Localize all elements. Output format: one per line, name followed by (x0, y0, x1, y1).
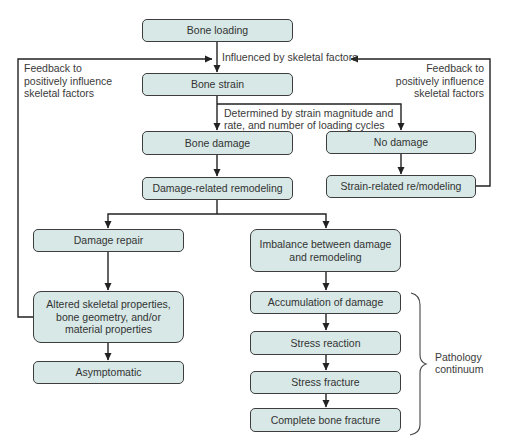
annotation-determined-2: rate, and number of loading cycles (224, 119, 385, 132)
node-strain-related-remodeling: Strain-related re/modeling (326, 175, 476, 198)
node-label: Altered skeletal properties, (46, 298, 170, 311)
node-label: Bone strain (191, 78, 244, 91)
feedback-right-1: Feedback to (426, 62, 484, 75)
node-label: Damage-related remodeling (152, 182, 282, 195)
node-label: No damage (374, 136, 428, 149)
feedback-right-2: positively influence (396, 75, 484, 88)
node-bone-damage: Bone damage (142, 131, 293, 155)
annotation-determined-1: Determined by strain magnitude and (224, 107, 393, 120)
node-complete-bone-fracture: Complete bone fracture (250, 408, 401, 432)
node-label: and remodeling (289, 251, 361, 264)
feedback-left-1: Feedback to (24, 62, 82, 75)
node-damage-repair: Damage repair (33, 229, 184, 252)
feedback-right-3: skeletal factors (414, 87, 484, 100)
node-asymptomatic: Asymptomatic (33, 361, 184, 384)
node-stress-reaction: Stress reaction (250, 331, 401, 355)
annotation-influenced: Influenced by skeletal factors (222, 51, 357, 64)
node-bone-loading: Bone loading (142, 19, 293, 42)
pathology-brace-icon (410, 293, 426, 435)
node-label: Bone loading (187, 24, 248, 37)
node-label: Stress fracture (291, 376, 359, 389)
node-label: material properties (65, 323, 152, 336)
pathology-label-1: Pathology (435, 351, 482, 364)
node-damage-related-remodeling: Damage-related remodeling (142, 177, 293, 200)
node-no-damage: No damage (326, 131, 476, 154)
node-accumulation-of-damage: Accumulation of damage (250, 291, 401, 314)
feedback-left-3: skeletal factors (24, 87, 94, 100)
node-label: Bone damage (185, 137, 250, 150)
node-label: Damage repair (74, 234, 143, 247)
node-label: Accumulation of damage (268, 296, 384, 309)
node-label: Stress reaction (290, 337, 360, 350)
node-label: Asymptomatic (76, 366, 142, 379)
arrow-to-damage-repair (108, 214, 217, 228)
node-altered-properties: Altered skeletal properties, bone geomet… (33, 291, 184, 343)
node-bone-strain: Bone strain (142, 73, 293, 96)
pathology-label-2: continuum (435, 363, 483, 376)
node-imbalance: Imbalance between damage and remodeling (250, 229, 401, 272)
node-label: Complete bone fracture (271, 414, 381, 427)
node-label: Strain-related re/modeling (341, 180, 462, 193)
node-label: bone geometry, and/or (56, 311, 161, 324)
feedback-left-2: positively influence (24, 75, 112, 88)
arrow-to-imbalance (217, 214, 326, 228)
node-label: Imbalance between damage (260, 238, 392, 251)
node-stress-fracture: Stress fracture (250, 371, 401, 394)
